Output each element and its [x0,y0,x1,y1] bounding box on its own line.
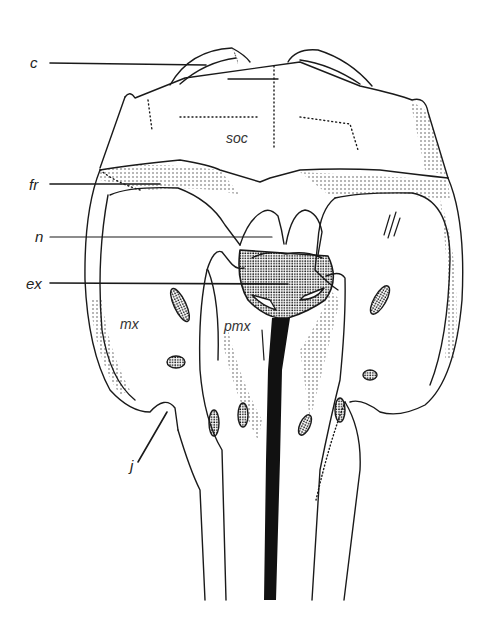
label-ex: ex [26,276,42,291]
label-j: j [130,458,133,473]
label-c: c [30,55,38,70]
skull-drawing [0,0,495,627]
label-pmx: pmx [224,319,250,333]
label-soc: soc [226,131,248,145]
label-n: n [35,229,43,244]
skull-figure: c fr n ex j soc mx pmx [0,0,495,627]
label-fr: fr [29,177,38,192]
label-mx: mx [120,317,139,331]
